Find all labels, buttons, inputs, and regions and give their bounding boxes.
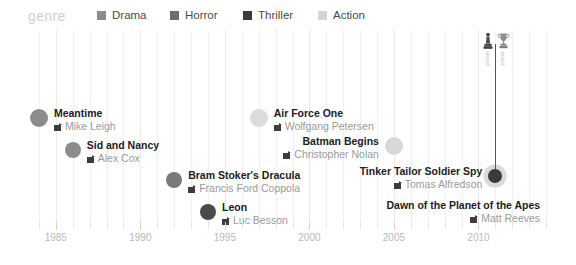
film-label[interactable]: Sid and NancyAlex Cox	[87, 139, 159, 165]
gridline	[225, 30, 226, 230]
gridline	[377, 30, 378, 230]
awards-group: awardaward	[479, 30, 513, 90]
film-label[interactable]: MeantimeMike Leigh	[54, 107, 116, 133]
axis-tick	[512, 222, 513, 227]
film-director: Christopher Nolan	[283, 148, 379, 161]
data-point[interactable]	[65, 142, 81, 158]
gridline	[259, 30, 260, 230]
axis-tick-label: 2010	[467, 232, 489, 243]
axis-tick	[39, 222, 40, 227]
axis-tick	[107, 222, 108, 227]
film-director: Wolfgang Petersen	[274, 120, 374, 133]
film-title: Bram Stoker's Dracula	[188, 169, 300, 182]
gridline	[191, 30, 192, 230]
data-point[interactable]	[30, 109, 48, 127]
legend-label: Action	[333, 9, 365, 21]
axis-tick	[73, 222, 74, 227]
axis-tick	[411, 222, 412, 227]
axis-tick	[276, 222, 277, 227]
legend-label: Drama	[112, 9, 147, 21]
film-label[interactable]: Air Force OneWolfgang Petersen	[274, 107, 374, 133]
axis-tick	[428, 222, 429, 227]
axis-tick	[293, 222, 294, 227]
axis-tick	[445, 222, 446, 227]
legend-item-drama[interactable]: Drama	[97, 9, 147, 21]
axis-tick	[225, 222, 226, 230]
axis-tick	[259, 222, 260, 227]
axis-tick	[174, 222, 175, 227]
director-name: Wolfgang Petersen	[285, 120, 374, 133]
film-director: Alex Cox	[87, 152, 159, 165]
gridline	[123, 30, 124, 230]
axis-tick	[462, 222, 463, 227]
legend-title: genre	[28, 8, 66, 24]
axis-tick	[309, 222, 310, 230]
axis-tick	[360, 222, 361, 227]
gridline	[39, 30, 40, 230]
legend-swatch-action	[318, 11, 327, 20]
legend-item-action[interactable]: Action	[318, 9, 365, 21]
movie-camera-icon	[188, 185, 196, 193]
film-director: Mike Leigh	[54, 120, 116, 133]
data-point[interactable]	[385, 137, 403, 155]
axis-tick-label: 2000	[298, 232, 320, 243]
film-label[interactable]: Bram Stoker's DraculaFrancis Ford Coppol…	[188, 169, 300, 195]
movie-camera-icon	[274, 123, 282, 131]
movie-camera-icon	[283, 151, 291, 159]
film-title: Tinker Tailor Soldier Spy	[360, 165, 483, 178]
movie-camera-icon	[394, 181, 402, 189]
data-point[interactable]	[200, 204, 216, 220]
legend: genre DramaHorrorThrillerAction	[0, 0, 576, 30]
legend-swatch-drama	[97, 11, 106, 20]
legend-item-thriller[interactable]: Thriller	[243, 9, 293, 21]
award-connector-line	[495, 44, 496, 176]
axis-tick-label: 1990	[129, 232, 151, 243]
axis-tick	[157, 222, 158, 227]
gridline	[242, 30, 243, 230]
film-title: Leon	[222, 201, 288, 214]
film-title: Dawn of the Planet of the Apes	[386, 199, 540, 212]
genre-timeline-chart: genre DramaHorrorThrillerAction awardawa…	[0, 0, 576, 265]
axis-tick	[56, 222, 57, 230]
legend-label: Thriller	[258, 9, 293, 21]
data-point[interactable]	[250, 109, 268, 127]
director-name: Mike Leigh	[65, 120, 116, 133]
data-point[interactable]	[488, 169, 502, 183]
axis-tick-label: 1995	[214, 232, 236, 243]
gridline	[140, 30, 141, 230]
director-name: Alex Cox	[98, 152, 140, 165]
award-label-left: award	[485, 51, 491, 66]
axis-tick	[478, 222, 479, 230]
axis-tick	[123, 222, 124, 227]
axis-tick	[90, 222, 91, 227]
legend-label: Horror	[185, 9, 218, 21]
plot-area: awardaward MeantimeMike LeighSid and Nan…	[0, 30, 576, 230]
x-axis: 198519901995200020052010	[0, 222, 576, 252]
director-name: Tomas Alfredson	[405, 178, 483, 191]
axis-tick	[191, 222, 192, 227]
axis-tick-label: 1985	[45, 232, 67, 243]
axis-tick-label: 2005	[383, 232, 405, 243]
data-point[interactable]	[166, 172, 182, 188]
movie-camera-icon	[87, 155, 95, 163]
axis-tick	[343, 222, 344, 227]
axis-tick	[394, 222, 395, 230]
axis-tick	[242, 222, 243, 227]
axis-tick	[529, 222, 530, 227]
axis-tick	[326, 222, 327, 227]
axis-tick	[546, 222, 547, 227]
axis-tick	[495, 222, 496, 227]
film-title: Air Force One	[274, 107, 374, 120]
film-director: Francis Ford Coppola	[188, 182, 300, 195]
film-label[interactable]: Batman BeginsChristopher Nolan	[283, 135, 379, 161]
axis-tick	[208, 222, 209, 227]
film-title: Meantime	[54, 107, 116, 120]
legend-item-horror[interactable]: Horror	[170, 9, 218, 21]
legend-swatch-horror	[170, 11, 179, 20]
film-title: Sid and Nancy	[87, 139, 159, 152]
film-label[interactable]: Tinker Tailor Soldier SpyTomas Alfredson	[360, 165, 483, 191]
director-name: Francis Ford Coppola	[199, 182, 300, 195]
gridline	[546, 30, 547, 230]
film-title: Batman Begins	[283, 135, 379, 148]
axis-tick	[377, 222, 378, 227]
